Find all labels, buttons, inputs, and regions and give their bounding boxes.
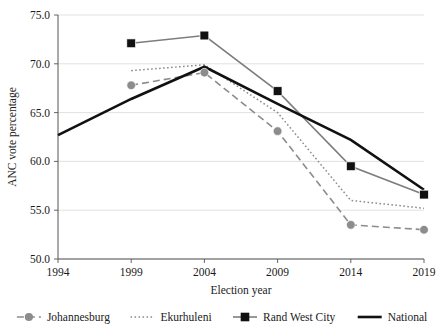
x-tick-label: 1999 (120, 266, 143, 278)
series-line-johannesburg (131, 73, 424, 230)
legend-square-marker (241, 313, 250, 322)
legend-label-national: National (388, 311, 428, 323)
legend-circle-marker (25, 313, 33, 321)
data-point-marker (200, 68, 209, 77)
legend-label-rand-west-city: Rand West City (263, 311, 336, 324)
data-point-marker (420, 190, 429, 199)
series-line-national (58, 67, 424, 190)
y-tick-label: 50.0 (30, 253, 50, 265)
data-point-marker (346, 162, 355, 171)
x-tick-label: 2014 (339, 266, 362, 278)
y-tick-label: 55.0 (30, 204, 50, 216)
series-line-ekurhuleni (131, 65, 424, 208)
y-tick-label: 75.0 (30, 9, 50, 21)
chart-canvas: 50.055.060.065.070.075.01994199920042009… (0, 0, 437, 332)
legend-label-ekurhuleni: Ekurhuleni (161, 311, 212, 323)
data-point-marker (127, 81, 136, 90)
data-point-marker (127, 39, 136, 48)
x-axis-title: Election year (211, 284, 272, 297)
data-point-marker (273, 87, 282, 96)
x-tick-label: 2019 (413, 266, 436, 278)
data-point-marker (200, 31, 209, 40)
data-point-marker (347, 221, 356, 230)
y-tick-label: 65.0 (30, 107, 50, 119)
series-line-rand-west-city (131, 35, 424, 194)
x-tick-label: 1994 (47, 266, 70, 278)
y-tick-label: 70.0 (30, 58, 50, 70)
x-tick-label: 2004 (193, 266, 216, 278)
legend-label-johannesburg: Johannesburg (47, 311, 110, 324)
data-point-marker (420, 225, 429, 234)
y-axis-title: ANC vote percentage (6, 87, 19, 187)
data-point-marker (273, 127, 282, 136)
x-tick-label: 2009 (266, 266, 289, 278)
y-tick-label: 60.0 (30, 155, 50, 167)
anc-vote-percentage-chart: 50.055.060.065.070.075.01994199920042009… (0, 0, 437, 332)
